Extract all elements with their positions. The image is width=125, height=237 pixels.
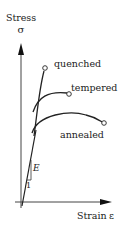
- stress-strain-diagram: Stress σ Strain ε E 1 quenched tempered …: [0, 0, 125, 237]
- quenched-fracture-point: [43, 66, 48, 71]
- y-axis-arrow-icon: [18, 43, 24, 55]
- x-axis-arrow-icon: [100, 199, 112, 205]
- slope-label-e: E: [32, 163, 40, 173]
- annealed-fracture-point: [102, 121, 107, 126]
- y-axis-symbol: σ: [18, 24, 25, 35]
- label-tempered: tempered: [71, 82, 117, 93]
- slope-label-unit: 1: [26, 181, 31, 190]
- label-annealed: annealed: [60, 129, 104, 140]
- y-axis-label: Stress: [6, 12, 36, 23]
- x-axis-label: Strain: [77, 210, 107, 221]
- x-axis-symbol: ε: [109, 210, 114, 221]
- label-quenched: quenched: [54, 58, 101, 69]
